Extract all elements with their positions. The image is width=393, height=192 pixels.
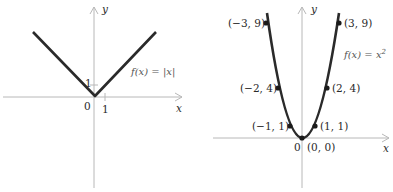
left-origin-label: 0 <box>84 100 91 112</box>
figure: y x 0 1 1 f(x) = |x| y x 0 (−3, 9) (3, 9… <box>0 0 393 192</box>
left-x-tick-label: 1 <box>102 103 109 115</box>
label-2-4: (2, 4) <box>332 82 360 94</box>
abs-value-function-label: f(x) = |x| <box>130 66 175 78</box>
parabola-exponent: 2 <box>381 48 387 56</box>
left-x-axis-label: x <box>176 102 182 114</box>
label-neg3-9: (−3, 9) <box>228 17 265 29</box>
point-1-1 <box>312 123 317 128</box>
right-y-axis-label: y <box>310 3 318 15</box>
label-1-1: (1, 1) <box>320 120 348 132</box>
left-y-tick-label: 1 <box>85 77 92 89</box>
parabola-graph: y x 0 (−3, 9) (3, 9) (−2, 4) (2, 4) (−1,… <box>213 3 389 188</box>
point-2-4 <box>324 85 329 90</box>
label-3-9: (3, 9) <box>344 17 372 29</box>
point-3-9 <box>336 20 341 25</box>
label-neg2-4: (−2, 4) <box>240 82 277 94</box>
abs-value-graph: y x 0 1 1 f(x) = |x| <box>3 3 182 188</box>
label-neg1-1: (−1, 1) <box>252 120 289 132</box>
left-y-axis-label: y <box>101 3 109 15</box>
parabola-function-text: f(x) = x <box>343 49 382 60</box>
right-x-axis-label: x <box>383 142 389 154</box>
parabola-function-label: f(x) = x2 <box>343 48 387 60</box>
label-0-0: (0, 0) <box>307 141 335 153</box>
right-origin-label: 0 <box>294 141 301 153</box>
point-0-0 <box>299 135 304 140</box>
